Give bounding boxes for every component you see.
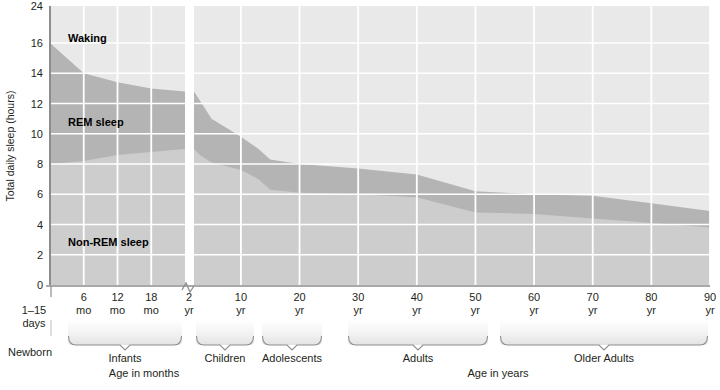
x-tick-group-20yr: 20yr xyxy=(293,291,305,316)
age-group-label: Adults xyxy=(403,352,434,364)
x-tick-value: 10 xyxy=(235,291,247,303)
x-tick-unit: yr xyxy=(412,304,422,316)
series-label-rem: REM sleep xyxy=(68,116,124,128)
x-tick-labels: 6mo12mo18mo2yr10yr20yr30yr40yr50yr60yr70… xyxy=(76,291,716,316)
bracket-fill xyxy=(348,320,488,345)
x-tick-group-50yr: 50yr xyxy=(469,291,481,316)
bracket-fill xyxy=(68,320,182,345)
y-tick-6: 6 xyxy=(37,188,43,200)
y-tick-4: 4 xyxy=(37,219,43,231)
x-tick-unit: mo xyxy=(76,304,91,316)
x-tick-value: 70 xyxy=(587,291,599,303)
x-tick-unit: mo xyxy=(110,304,125,316)
age-group-label: Adolescents xyxy=(262,352,322,364)
series-label-waking: Waking xyxy=(68,32,107,44)
x-tick-value: 6 xyxy=(81,291,87,303)
sleep-across-lifespan-chart: 024681012141624 Total daily sleep (hours… xyxy=(0,0,720,390)
chart-svg: 024681012141624 Total daily sleep (hours… xyxy=(0,0,720,390)
newborn-tick-top: 1–15 xyxy=(22,304,46,316)
y-tick-14: 14 xyxy=(31,67,43,79)
x-tick-group-40yr: 40yr xyxy=(411,291,423,316)
x-tick-group-2yr: 2yr xyxy=(184,291,194,316)
bracket-older-adults: Older Adults xyxy=(500,320,708,364)
bracket-fill xyxy=(196,320,254,345)
x-tick-value: 90 xyxy=(704,291,716,303)
y-tick-10: 10 xyxy=(31,128,43,140)
series-label-non-rem: Non-REM sleep xyxy=(68,236,149,248)
x-tick-group-6mo: 6mo xyxy=(76,291,91,316)
x-tick-unit: yr xyxy=(705,304,715,316)
x-tick-value: 40 xyxy=(411,291,423,303)
x-tick-group-30yr: 30yr xyxy=(352,291,364,316)
x-tick-value: 2 xyxy=(186,291,192,303)
age-group-label: Children xyxy=(205,352,246,364)
x-tick-group-70yr: 70yr xyxy=(587,291,599,316)
x-tick-group-60yr: 60yr xyxy=(528,291,540,316)
y-tick-24: 24 xyxy=(31,0,43,12)
x-tick-value: 12 xyxy=(111,291,123,303)
x-tick-value: 50 xyxy=(469,291,481,303)
age-group-label: Infants xyxy=(108,352,142,364)
newborn-tick-group: 1–15 days Newborn xyxy=(8,304,52,358)
x-tick-unit: yr xyxy=(530,304,540,316)
plot-area xyxy=(50,6,710,285)
bracket-adults: Adults xyxy=(348,320,488,364)
y-tick-16: 16 xyxy=(31,37,43,49)
x-axis-break-band xyxy=(185,6,194,285)
x-tick-unit: yr xyxy=(354,304,364,316)
x-tick-group-18mo: 18mo xyxy=(144,291,159,316)
age-group-brackets: InfantsChildrenAdolescentsAdultsOlder Ad… xyxy=(68,320,708,364)
x-tick-group-12mo: 12mo xyxy=(110,291,125,316)
age-group-newborn: Newborn xyxy=(8,346,52,358)
bracket-fill xyxy=(500,320,708,345)
x-tick-unit: yr xyxy=(647,304,657,316)
bracket-infants: Infants xyxy=(68,320,182,364)
x-tick-unit: yr xyxy=(236,304,246,316)
x-tick-group-10yr: 10yr xyxy=(235,291,247,316)
x-tick-unit: yr xyxy=(471,304,481,316)
y-tick-labels: 024681012141624 xyxy=(31,0,43,291)
x-tick-value: 20 xyxy=(293,291,305,303)
x-tick-unit: mo xyxy=(144,304,159,316)
y-tick-12: 12 xyxy=(31,98,43,110)
y-axis-title: Total daily sleep (hours) xyxy=(4,91,16,202)
x-tick-unit: yr xyxy=(184,304,194,316)
x-tick-unit: yr xyxy=(588,304,598,316)
y-tick-8: 8 xyxy=(37,158,43,170)
x-tick-value: 30 xyxy=(352,291,364,303)
x-tick-value: 80 xyxy=(645,291,657,303)
y-tick-2: 2 xyxy=(37,249,43,261)
bracket-children: Children xyxy=(196,320,254,364)
bracket-fill xyxy=(262,320,322,345)
bracket-adolescents: Adolescents xyxy=(262,320,322,364)
x-tick-value: 18 xyxy=(145,291,157,303)
x-tick-group-90yr: 90yr xyxy=(704,291,716,316)
y-tick-0: 0 xyxy=(37,279,43,291)
x-tick-group-80yr: 80yr xyxy=(645,291,657,316)
age-group-label: Older Adults xyxy=(574,352,634,364)
x-axis-caption-months: Age in months xyxy=(109,367,180,379)
x-tick-value: 60 xyxy=(528,291,540,303)
newborn-tick-bottom: days xyxy=(22,317,46,329)
x-tick-unit: yr xyxy=(295,304,305,316)
x-axis-caption-years: Age in years xyxy=(467,367,529,379)
